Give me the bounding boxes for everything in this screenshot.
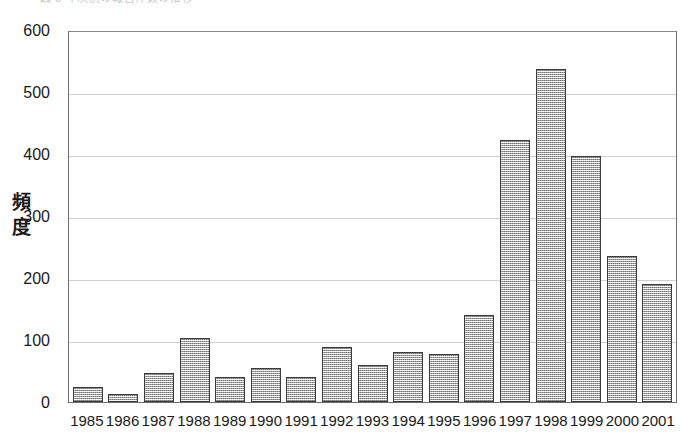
bar-slot xyxy=(70,32,106,402)
bar-slot xyxy=(390,32,426,402)
bar-slot xyxy=(604,32,640,402)
y-tick-label: 200 xyxy=(23,271,50,287)
bar-slot xyxy=(319,32,355,402)
bar-2001 xyxy=(642,284,672,402)
bar-slot xyxy=(568,32,604,402)
x-tick-label: 2001 xyxy=(640,412,676,430)
bar-slot xyxy=(141,32,177,402)
chart-plot-area xyxy=(68,31,677,403)
x-tick-label: 1996 xyxy=(462,412,498,430)
bar-1990 xyxy=(251,368,281,402)
x-tick-label: 1994 xyxy=(390,412,426,430)
bar-slot xyxy=(106,32,142,402)
y-tick-label: 300 xyxy=(23,209,50,225)
x-tick-label: 1998 xyxy=(533,412,569,430)
bar-1997 xyxy=(500,140,530,402)
x-tick-label: 1995 xyxy=(426,412,462,430)
x-tick-label: 2000 xyxy=(605,412,641,430)
bar-slot xyxy=(533,32,569,402)
x-tick-label: 1988 xyxy=(176,412,212,430)
bar-slot xyxy=(212,32,248,402)
bar-1988 xyxy=(180,338,210,402)
bar-1985 xyxy=(73,387,103,403)
top-caption: 図 3 年次別の報告件数の推移 xyxy=(0,0,687,11)
bar-2000 xyxy=(607,256,637,402)
y-tick-label: 400 xyxy=(23,147,50,163)
bar-slot xyxy=(248,32,284,402)
bar-slot xyxy=(284,32,320,402)
bar-1996 xyxy=(464,315,494,402)
y-tick-label: 0 xyxy=(41,395,50,411)
x-tick-label: 1993 xyxy=(355,412,391,430)
bar-slot xyxy=(497,32,533,402)
bar-1989 xyxy=(215,377,245,402)
y-tick-label: 100 xyxy=(23,333,50,349)
top-caption-text: 図 3 年次別の報告件数の推移 xyxy=(40,0,193,4)
y-axis-tick-labels: 6005004003002001000 xyxy=(0,0,62,445)
x-tick-label: 1999 xyxy=(569,412,605,430)
bar-1993 xyxy=(358,365,388,402)
bar-slot xyxy=(462,32,498,402)
bar-series xyxy=(69,32,676,402)
bar-1998 xyxy=(536,69,566,402)
x-tick-label: 1992 xyxy=(319,412,355,430)
bar-slot xyxy=(426,32,462,402)
bar-1987 xyxy=(144,373,174,402)
x-tick-label: 1990 xyxy=(248,412,284,430)
y-tick-label: 500 xyxy=(23,85,50,101)
bar-1986 xyxy=(108,394,138,402)
bar-1992 xyxy=(322,347,352,402)
bar-1991 xyxy=(286,377,316,402)
x-tick-label: 1985 xyxy=(69,412,105,430)
bar-slot xyxy=(355,32,391,402)
bar-1995 xyxy=(429,354,459,402)
x-tick-label: 1989 xyxy=(212,412,248,430)
x-tick-label: 1991 xyxy=(283,412,319,430)
bar-slot xyxy=(177,32,213,402)
x-tick-label: 1986 xyxy=(105,412,141,430)
y-tick-label: 600 xyxy=(23,23,50,39)
x-axis-tick-labels: 1985198619871988198919901991199219931994… xyxy=(68,412,677,430)
x-tick-label: 1997 xyxy=(497,412,533,430)
bar-1994 xyxy=(393,352,423,402)
bar-slot xyxy=(640,32,676,402)
bar-1999 xyxy=(571,156,601,402)
x-tick-label: 1987 xyxy=(140,412,176,430)
